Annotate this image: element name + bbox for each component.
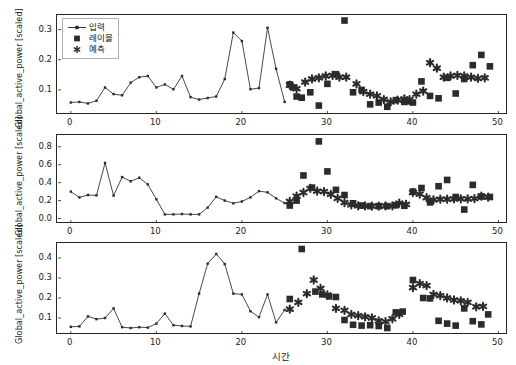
data-point-label [427,93,434,100]
legend-label-prediction: 예측 [87,44,105,55]
x-tick-label: 50 [492,117,503,127]
data-point-input [147,75,149,77]
series-line-input [71,254,285,328]
data-point-prediction [287,306,293,313]
data-point-prediction [300,189,306,196]
data-point-input [275,321,277,323]
data-point-label [341,17,348,24]
legend-label-input: 입력 [87,22,105,33]
data-point-input [87,315,89,317]
y-tick-label: 0.3 [22,24,52,34]
data-point-prediction [374,92,380,99]
data-point-prediction [471,195,477,202]
data-point-prediction [417,191,423,198]
asterisk-marker-icon [67,45,87,54]
data-point-input [215,196,217,198]
data-point-prediction [348,311,354,318]
data-point-prediction [413,90,419,97]
plot-area-0 [57,15,508,115]
data-point-input [181,75,183,77]
data-point-input [70,101,72,103]
data-point-input [70,326,72,328]
data-point-input [104,162,106,164]
data-point-input [121,176,123,178]
x-tick-label: 20 [235,337,246,347]
data-point-input [189,213,191,215]
data-point-label [367,101,374,108]
data-point-label [444,177,451,184]
data-point-prediction [475,75,481,82]
series-line-input [71,163,285,214]
data-point-input [121,326,123,328]
data-point-label [316,138,323,145]
data-point-input [241,200,243,202]
data-point-input [112,307,114,309]
data-point-prediction [451,296,457,303]
data-point-prediction [382,318,388,325]
data-point-prediction [482,74,488,81]
data-point-input [258,190,260,192]
data-point-prediction [316,74,322,81]
x-tick-label: 10 [150,226,161,236]
data-point-prediction [323,72,329,79]
data-point-prediction [434,65,440,72]
legend-label-label: 레이블 [87,33,113,44]
data-point-label [435,183,442,190]
data-point-input [198,213,200,215]
data-point-prediction [302,78,308,85]
data-point-label [444,320,451,327]
data-point-input [249,88,251,90]
data-point-input [275,197,277,199]
x-tick-label: 20 [235,117,246,127]
data-point-input [78,325,80,327]
data-point-input [147,326,149,328]
data-point-input [172,324,174,326]
data-point-input [215,253,217,255]
data-point-input [155,322,157,324]
data-point-label [324,81,331,88]
data-point-input [241,40,243,42]
data-point-prediction [473,303,479,310]
data-point-input [78,196,80,198]
data-point-label [286,296,293,303]
data-point-prediction [465,195,471,202]
data-point-input [104,317,106,319]
data-point-input [224,263,226,265]
data-point-input [164,312,166,314]
data-point-label [358,322,365,329]
data-point-prediction [367,90,373,97]
x-tick-label: 10 [150,117,161,127]
data-point-label [487,63,494,70]
data-point-prediction [480,303,486,310]
data-point-input [138,326,140,328]
data-point-input [112,194,114,196]
data-point-prediction [311,276,317,283]
data-point-label [469,182,476,189]
data-point-label [452,322,459,329]
data-point-label [485,311,492,318]
data-point-prediction [309,75,315,82]
x-tick-label: 50 [492,226,503,236]
data-point-input [172,213,174,215]
data-point-input [95,318,97,320]
data-point-prediction [444,294,450,301]
data-point-input [198,98,200,100]
data-point-prediction [341,307,347,314]
data-point-input [206,262,208,264]
legend-item-input: 입력 [67,22,113,33]
data-point-prediction [437,196,443,203]
x-tick-label: 50 [492,337,503,347]
y-tick-label: 0.2 [22,195,52,205]
data-point-label [341,192,348,199]
data-point-input [95,100,97,102]
x-tick-label: 40 [407,117,418,127]
x-tick-label: 0 [67,337,72,347]
data-point-label [316,102,323,109]
data-point-prediction [341,199,347,206]
data-point-input [266,293,268,295]
data-point-input [138,76,140,78]
data-point-input [164,83,166,85]
data-point-input [224,78,226,80]
data-point-prediction [335,195,341,202]
data-point-label [461,206,468,213]
